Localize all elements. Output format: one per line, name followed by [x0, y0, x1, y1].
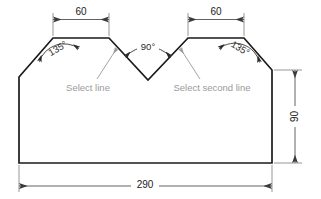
angle-label-notch-90: 90° [141, 41, 156, 52]
angle-right-135-group: 135° [219, 38, 260, 62]
angle-notch-90-group: 90° [126, 41, 171, 57]
part-outline-group [19, 38, 272, 163]
leader-line-select-line [97, 48, 117, 79]
part-outline[interactable] [19, 38, 272, 163]
drawing-canvas: 60 60 290 90 135° [0, 0, 321, 199]
leader-line-select-second-line [180, 48, 200, 79]
dimension-top-left-60: 60 [53, 6, 109, 36]
dimension-label-right-90: 90 [289, 111, 300, 123]
dimension-overall-290: 290 [19, 165, 272, 192]
dimension-label-overall-290: 290 [137, 179, 154, 190]
angle-left-135-group: 135° [39, 38, 79, 62]
annotation-select-second-line-group[interactable]: Select second line [173, 48, 250, 93]
annotation-label-select-second-line[interactable]: Select second line [173, 82, 250, 93]
technical-drawing-svg: 60 60 290 90 135° [0, 0, 321, 199]
annotation-label-select-line[interactable]: Select line [66, 82, 110, 93]
angle-label-right-135: 135° [229, 38, 252, 58]
annotation-select-line-group[interactable]: Select line [66, 48, 117, 93]
dimension-right-90: 90 [274, 70, 302, 163]
dimension-top-right-60: 60 [188, 6, 244, 36]
dimension-label-top-right-60: 60 [210, 6, 222, 17]
dimension-label-top-left-60: 60 [75, 6, 87, 17]
